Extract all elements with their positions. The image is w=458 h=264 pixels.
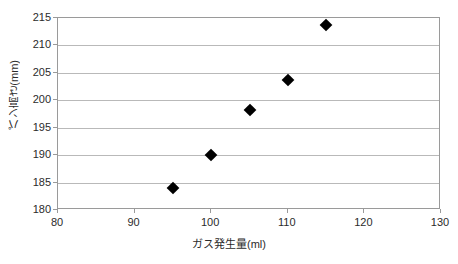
y-tick-label-185: 185 [11, 177, 51, 188]
x-tick-label-120: 120 [343, 217, 383, 228]
y-tick-label-205: 205 [11, 67, 51, 78]
x-tick-label-90: 90 [114, 217, 154, 228]
y-tick-label-210: 210 [11, 39, 51, 50]
y-tick-mark-215 [53, 17, 57, 18]
y-tick-label-180: 180 [11, 204, 51, 215]
x-tick-mark-100 [210, 209, 211, 213]
gridline-y-210 [58, 45, 439, 46]
x-tick-mark-80 [57, 209, 58, 213]
gridline-y-200 [58, 100, 439, 101]
x-tick-mark-90 [134, 209, 135, 213]
data-point [243, 104, 256, 117]
data-point [281, 74, 294, 87]
y-tick-mark-210 [53, 44, 57, 45]
y-tick-label-200: 200 [11, 94, 51, 105]
data-point [320, 19, 333, 32]
gridline-y-185 [58, 183, 439, 184]
x-axis-title: ガス発生量(ml) [0, 238, 458, 251]
y-tick-label-215: 215 [11, 12, 51, 23]
y-tick-mark-195 [53, 127, 57, 128]
scatter-chart: パン高さ(mm) ガス発生量(ml) 180185190195200205210… [0, 0, 458, 264]
x-tick-label-80: 80 [37, 217, 77, 228]
gridline-y-190 [58, 155, 439, 156]
x-tick-mark-110 [287, 209, 288, 213]
x-tick-label-130: 130 [420, 217, 458, 228]
x-tick-mark-130 [440, 209, 441, 213]
x-tick-mark-120 [363, 209, 364, 213]
x-tick-label-100: 100 [190, 217, 230, 228]
y-tick-label-195: 195 [11, 122, 51, 133]
plot-area [57, 17, 440, 209]
y-tick-label-190: 190 [11, 149, 51, 160]
gridline-y-205 [58, 73, 439, 74]
x-tick-label-110: 110 [267, 217, 307, 228]
y-tick-mark-200 [53, 99, 57, 100]
gridline-y-195 [58, 128, 439, 129]
y-tick-mark-190 [53, 154, 57, 155]
y-tick-mark-205 [53, 72, 57, 73]
y-tick-mark-185 [53, 182, 57, 183]
data-point [205, 148, 218, 161]
